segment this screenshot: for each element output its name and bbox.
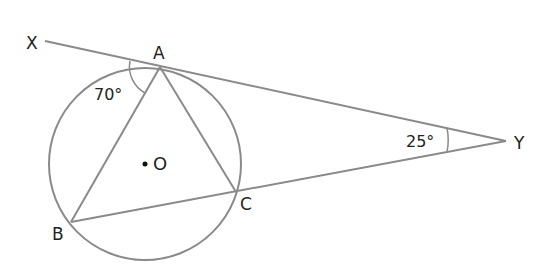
angle-label-70: 70°: [94, 85, 122, 104]
label-o: O: [153, 153, 167, 174]
label-a: A: [153, 43, 165, 63]
label-x: X: [26, 33, 38, 53]
angle-arc-xab: [129, 61, 145, 93]
circle-geometry-diagram: X A B C Y O 70° 25°: [0, 0, 555, 273]
angle-label-25: 25°: [406, 132, 434, 151]
center-dot: [143, 162, 148, 167]
chord-ac: [160, 67, 236, 192]
label-y: Y: [513, 133, 525, 153]
secant-line-by: [71, 141, 506, 222]
angle-arc-ayc: [447, 128, 448, 152]
label-b: B: [52, 224, 64, 244]
label-c: C: [240, 194, 252, 214]
